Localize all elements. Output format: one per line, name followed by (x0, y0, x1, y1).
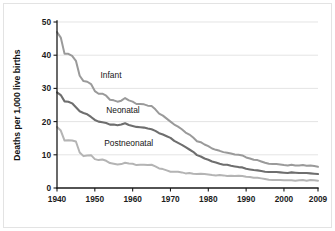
y-axis-title: Deaths per 1,000 live births (12, 49, 22, 161)
x-tick-label-1950: 1950 (86, 194, 105, 204)
y-tick-label-20: 20 (42, 117, 52, 127)
chart-plot-area: 01020304050 1940195019601970198019902000… (0, 0, 335, 231)
y-tick-label-40: 40 (42, 50, 52, 60)
series-label-neonatal: Neonatal (106, 105, 140, 115)
x-tick-label-1940: 1940 (48, 194, 67, 204)
x-tick-label-1980: 1980 (199, 194, 218, 204)
series-label-postneonatal: Postneonatal (104, 138, 153, 148)
axis-lines (57, 21, 318, 188)
y-tick-label-30: 30 (42, 83, 52, 93)
chart-figure: 01020304050 1940195019601970198019902000… (0, 0, 335, 231)
x-tick-label-1990: 1990 (237, 194, 256, 204)
gridlines (57, 22, 318, 155)
x-tick-label-1970: 1970 (161, 194, 180, 204)
x-tick-label-1960: 1960 (123, 194, 142, 204)
y-tick-label-50: 50 (42, 17, 52, 27)
y-axis-ticks: 01020304050 (42, 17, 57, 193)
y-tick-label-10: 10 (42, 150, 52, 160)
x-axis-ticks: 19401950196019701980199020002009 (48, 188, 328, 204)
series-line-infant (57, 32, 318, 167)
data-series-group (57, 32, 318, 181)
series-inline-labels: InfantNeonatalPostneonatal (101, 70, 154, 148)
y-tick-label-0: 0 (46, 183, 51, 193)
series-label-infant: Infant (101, 70, 123, 80)
x-tick-label-2009: 2009 (309, 194, 328, 204)
x-tick-label-2000: 2000 (275, 194, 294, 204)
